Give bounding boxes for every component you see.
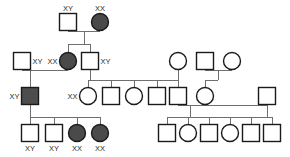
pedigree-symbol-iv-5-male-unaffected[interactable]	[159, 125, 176, 142]
pedigree-symbol-ii-2-female-affected[interactable]	[60, 53, 77, 70]
genotype-label-iv-3: XX	[72, 144, 82, 153]
pedigree-symbol-ii-1-male-unaffected[interactable]	[14, 53, 31, 70]
pedigree-canvas: XYXXXYXXXYXYXXXYXYXXXX	[0, 0, 290, 157]
genotype-label-i-1: XY	[63, 4, 73, 13]
pedigree-symbol-iv-6-female-unaffected[interactable]	[180, 125, 197, 142]
pedigree-symbol-iii-8-male-unaffected[interactable]	[259, 88, 276, 105]
genotype-label-ii-3: XY	[101, 57, 111, 66]
pedigree-symbol-ii-5-male-unaffected[interactable]	[197, 53, 214, 70]
connector-layer	[22, 31, 272, 125]
genotype-label-iii-1: XY	[9, 92, 19, 101]
pedigree-symbol-iii-2-female-unaffected[interactable]	[80, 88, 97, 105]
pedigree-chart: XYXXXYXXXYXYXXXYXYXXXX	[0, 0, 290, 157]
pedigree-symbol-iii-5-male-unaffected[interactable]	[149, 88, 166, 105]
pedigree-symbol-i-1-male-unaffected[interactable]	[60, 14, 77, 31]
pedigree-symbol-iv-7-male-unaffected[interactable]	[201, 125, 218, 142]
genotype-label-ii-2: XX	[47, 57, 57, 66]
pedigree-symbol-iv-3-female-affected[interactable]	[69, 125, 86, 142]
pedigree-symbol-iv-10-male-unaffected[interactable]	[264, 125, 281, 142]
pedigree-symbol-iv-8-female-unaffected[interactable]	[222, 125, 239, 142]
pedigree-symbol-iv-9-male-unaffected[interactable]	[243, 125, 260, 142]
pedigree-symbol-iii-7-female-unaffected[interactable]	[197, 88, 214, 105]
genotype-label-iii-2: XX	[67, 92, 77, 101]
pedigree-symbol-ii-3-male-unaffected[interactable]	[82, 53, 99, 70]
pedigree-symbol-iii-3-male-unaffected[interactable]	[103, 88, 120, 105]
pedigree-symbol-ii-4-female-unaffected[interactable]	[170, 53, 187, 70]
genotype-label-ii-1: XY	[33, 57, 43, 66]
pedigree-symbol-iii-4-female-unaffected[interactable]	[126, 88, 143, 105]
pedigree-symbol-ii-6-female-unaffected[interactable]	[224, 53, 241, 70]
pedigree-symbol-i-2-female-affected[interactable]	[92, 14, 109, 31]
pedigree-symbol-iii-6-male-unaffected[interactable]	[170, 88, 187, 105]
pedigree-symbol-iv-1-male-unaffected[interactable]	[22, 125, 39, 142]
genotype-label-iv-1: XY	[25, 144, 35, 153]
pedigree-symbol-iv-4-female-affected[interactable]	[92, 125, 109, 142]
genotype-label-iv-2: XY	[49, 144, 59, 153]
pedigree-symbol-iv-2-male-unaffected[interactable]	[46, 125, 63, 142]
genotype-label-iv-4: XX	[95, 144, 105, 153]
pedigree-symbol-iii-1-male-affected[interactable]	[22, 88, 39, 105]
genotype-label-i-2: XX	[95, 4, 105, 13]
